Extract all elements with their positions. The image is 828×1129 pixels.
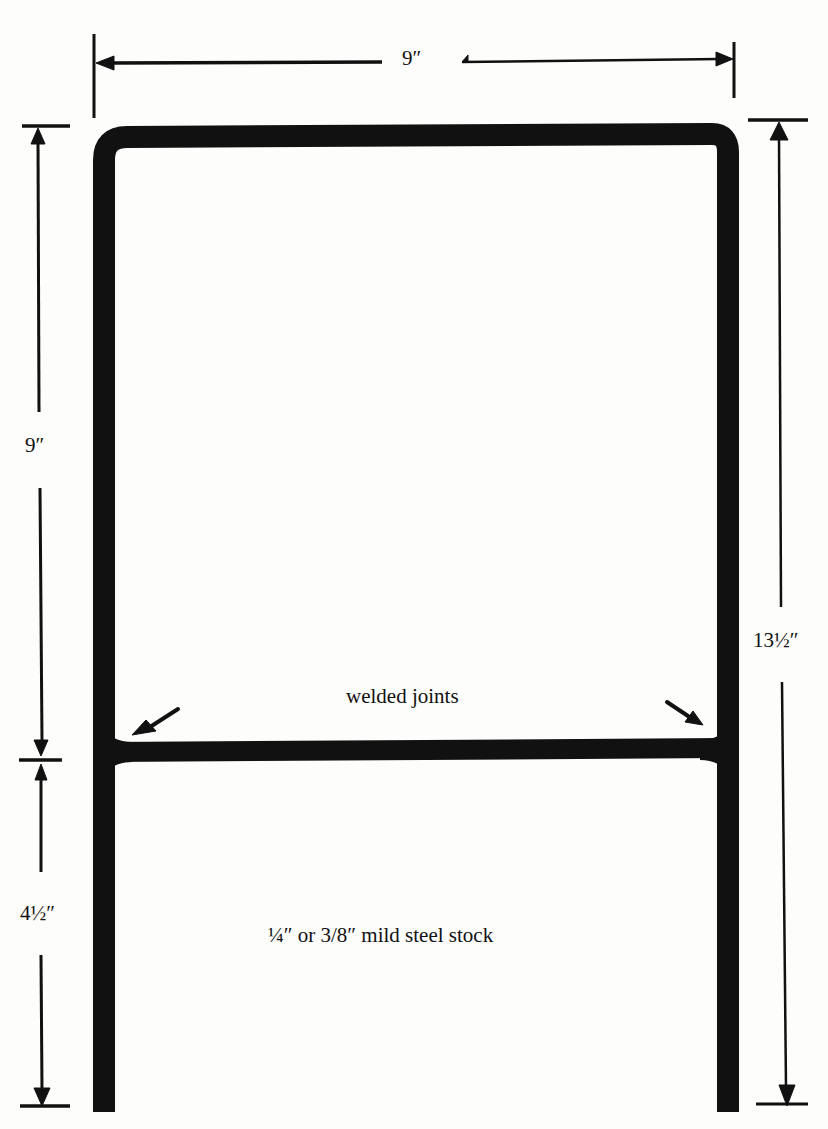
weld-arrow-right — [667, 702, 703, 725]
weld-arrow-left — [132, 709, 178, 735]
frame-crossbar — [110, 748, 722, 752]
total-height-label: 13½″ — [753, 630, 799, 651]
top-width-label: 9″ — [402, 48, 421, 69]
frame-top-rail — [104, 134, 728, 1112]
material-note: ¼″ or 3/8″ mild steel stock — [268, 925, 493, 946]
dimension-right — [748, 120, 808, 1106]
upper-height-label: 9″ — [25, 435, 44, 456]
dimension-left — [19, 126, 70, 1106]
steel-frame — [104, 134, 728, 1112]
lower-height-label: 4½″ — [20, 903, 55, 924]
frame-drawing — [0, 0, 828, 1129]
welded-joints-note: welded joints — [346, 686, 459, 707]
